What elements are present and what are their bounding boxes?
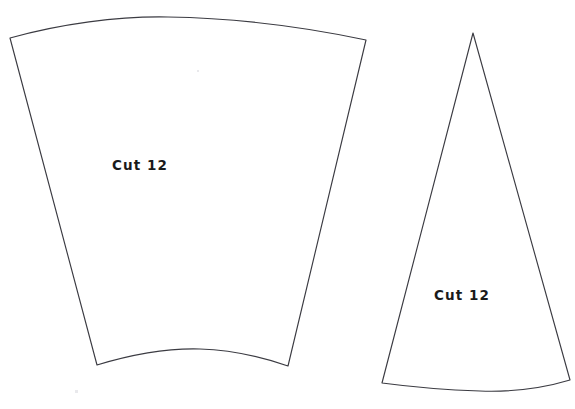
pattern-drawing-canvas: Cut 12 Cut 12 bbox=[0, 0, 575, 409]
narrow-cone-panel-label: Cut 12 bbox=[434, 287, 490, 303]
pattern-sheet: Cut 12 Cut 12 bbox=[0, 0, 575, 409]
wide-curved-panel-label: Cut 12 bbox=[112, 157, 168, 173]
paper-smudge-icon bbox=[75, 390, 78, 393]
paper-smudge-icon bbox=[197, 70, 199, 72]
